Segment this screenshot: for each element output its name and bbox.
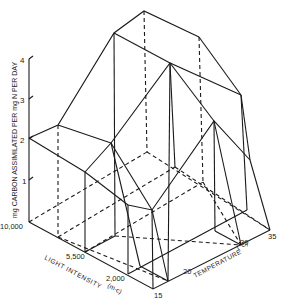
x-axis-unit: (m-c) <box>106 282 123 296</box>
3d-wireframe-chart: 4 3 2 1 10,000 5,500 2,000 15 20 30 35 m… <box>0 0 284 307</box>
x-tick-5500: 5,500 <box>66 252 85 261</box>
y-tick-15: 15 <box>154 291 162 300</box>
z-tick-2: 2 <box>20 136 25 145</box>
x-tick-10000: 10,000 <box>0 222 23 231</box>
y-axis-title: TEMPERATURE <box>192 248 242 279</box>
z-tick-4: 4 <box>20 56 25 65</box>
surface <box>29 11 270 289</box>
z-tick-3: 3 <box>20 96 25 105</box>
y-tick-35: 35 <box>268 232 276 241</box>
z-tick-1: 1 <box>22 177 27 186</box>
z-axis-title: mg CARBON ASSIMILATED PER mg N PER DAY <box>11 62 19 218</box>
y-tick-20: 20 <box>183 267 191 276</box>
